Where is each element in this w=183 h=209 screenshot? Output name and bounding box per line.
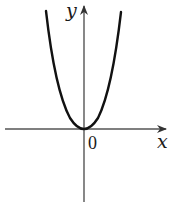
- origin-label: 0: [88, 133, 97, 153]
- y-axis-label: y: [65, 0, 77, 21]
- x-axis-label: x: [157, 130, 168, 152]
- parabola-figure: y x 0: [0, 0, 183, 209]
- graph-canvas: y x 0: [0, 0, 183, 209]
